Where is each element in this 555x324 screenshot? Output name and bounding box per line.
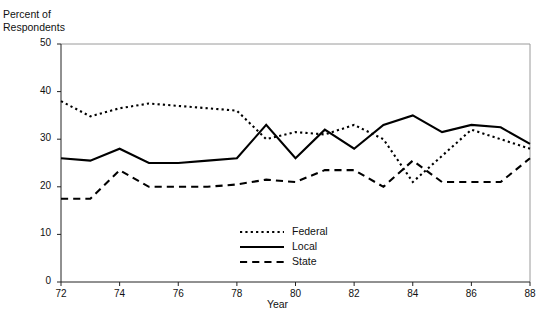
series-line-federal [61,101,530,182]
chart-container: Percent ofRespondents Year FederalLocalS… [0,0,555,324]
y-tick-label: 40 [25,85,51,96]
x-tick-label: 82 [341,288,367,299]
x-tick-label: 88 [517,288,543,299]
x-tick-label: 76 [165,288,191,299]
series-line-state [61,158,530,198]
legend-label-state: State [292,255,317,267]
x-tick-label: 78 [224,288,250,299]
x-axis-title: Year [0,298,555,311]
x-tick-label: 72 [48,288,74,299]
legend-label-local: Local [292,240,317,252]
y-tick-label: 50 [25,37,51,48]
x-tick-label: 84 [400,288,426,299]
x-tick-label: 74 [107,288,133,299]
legend-label-federal: Federal [292,225,328,237]
y-tick-label: 0 [25,275,51,286]
x-tick-label: 86 [458,288,484,299]
y-tick-label: 30 [25,132,51,143]
y-tick-label: 20 [25,180,51,191]
x-tick-label: 80 [283,288,309,299]
plot-area [0,0,555,324]
y-tick-label: 10 [25,227,51,238]
